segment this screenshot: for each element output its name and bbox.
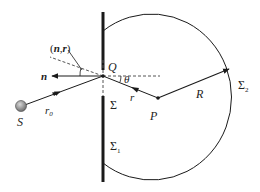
label-q: Q [108, 60, 117, 74]
angle-arc-nr [80, 68, 81, 76]
source-s [16, 101, 27, 112]
label-r: r [130, 91, 135, 103]
label-nr: (n,r) [50, 42, 71, 55]
r0-ray [22, 76, 103, 106]
label-sigma1: Σ1 [110, 139, 121, 155]
label-sigma: Σ [110, 98, 117, 112]
label-s: S [17, 115, 23, 129]
label-theta: θ [124, 73, 130, 85]
label-radius: R [195, 87, 204, 101]
label-n: n [41, 70, 47, 82]
label-r0: r0 [45, 104, 53, 118]
point-p [156, 96, 160, 100]
radius-arrow [158, 69, 229, 98]
label-p: P [149, 109, 158, 123]
diffraction-diagram: (n,r) n Q θ r r0 Σ Σ1 Σ2 P R S [0, 0, 260, 192]
angle-arc-theta [120, 76, 121, 82]
label-sigma2: Σ2 [238, 78, 249, 94]
r0-arrowhead [52, 92, 60, 97]
sphere-sigma2 [103, 14, 232, 180]
r-extension-dashed-line [50, 57, 103, 76]
point-q [101, 74, 105, 78]
